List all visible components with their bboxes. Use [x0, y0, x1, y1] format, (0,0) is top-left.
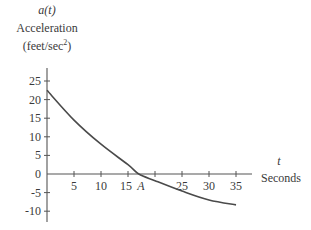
- y-tick-label: -5: [31, 186, 41, 200]
- x-axis-variable-label: t: [277, 154, 281, 168]
- y-tick-label: 0: [35, 167, 41, 181]
- x-tick-label: 15: [120, 179, 132, 193]
- y-axis-ticks: 2520151050-5-10: [25, 74, 50, 218]
- x-tick-label: 5: [71, 179, 77, 193]
- y-tick-label: 15: [29, 111, 41, 125]
- y-tick-label: 20: [29, 93, 41, 107]
- x-axis-name-label: Seconds: [261, 171, 301, 185]
- y-axis-name-label: Acceleration: [16, 21, 77, 35]
- y-tick-label: -10: [25, 204, 41, 218]
- zero-crossing-label-a: A: [136, 179, 145, 193]
- y-tick-label: 25: [29, 74, 41, 88]
- x-tick-label: 10: [95, 179, 107, 193]
- y-tick-label: 5: [35, 148, 41, 162]
- y-tick-label: 10: [29, 130, 41, 144]
- y-axis-function-label: a(t): [38, 3, 55, 17]
- x-tick-label: 30: [203, 179, 215, 193]
- x-tick-label: 35: [230, 179, 242, 193]
- y-axis-units-label: (feet/sec2): [23, 38, 72, 53]
- acceleration-chart: a(t) Acceleration (feet/sec2) 2520151050…: [0, 0, 311, 230]
